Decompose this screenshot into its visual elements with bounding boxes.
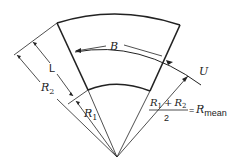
l-arrowhead-bottom	[69, 92, 73, 96]
svg-text:R1+R2: R1+R2	[149, 97, 186, 110]
rmean-arrowhead	[182, 76, 188, 82]
r2-dim-line	[17, 55, 40, 82]
svg-text:2: 2	[164, 113, 169, 123]
label-b: B	[109, 40, 118, 53]
label-r1: R1	[83, 107, 97, 122]
svg-text:Rmean: Rmean	[195, 103, 227, 118]
label-r2: R2	[40, 81, 54, 96]
r2-extension	[14, 23, 57, 55]
curved-duct-diagram: B L R2 R1 U R1+R2 2 = Rmean	[0, 0, 237, 162]
radial-line-right	[117, 91, 150, 157]
b-dim-line-right	[124, 45, 162, 56]
rmean-leader	[117, 76, 188, 157]
rmean-formula: R1+R2 2 = Rmean	[149, 97, 227, 123]
outer-arc	[57, 14, 180, 25]
r1-arrowhead	[76, 101, 80, 105]
label-l: L	[49, 62, 55, 74]
svg-text:=: =	[189, 105, 194, 115]
l-arrowhead-top	[33, 42, 37, 46]
right-wall	[150, 25, 180, 91]
mean-arc	[75, 49, 201, 85]
inner-arc	[88, 84, 150, 91]
label-u: U	[199, 65, 209, 78]
